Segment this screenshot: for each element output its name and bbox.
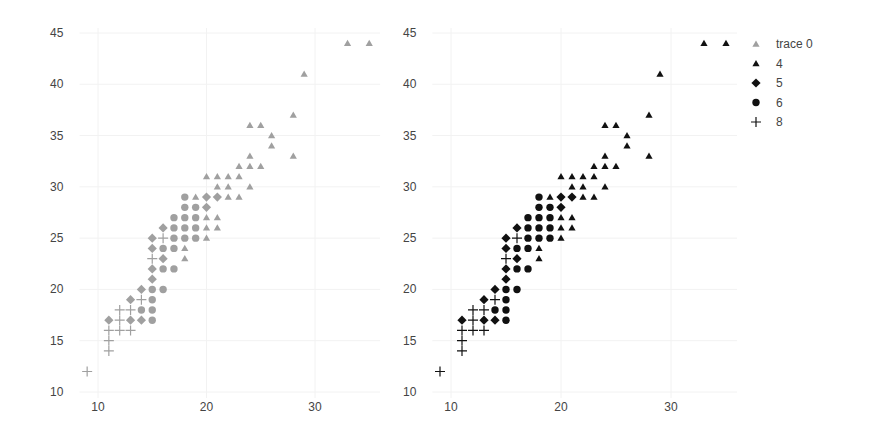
data-point-plus (435, 366, 445, 376)
data-point-diamond (490, 316, 499, 325)
data-point-plus (126, 305, 136, 315)
data-point-plus (104, 336, 114, 346)
legend-item[interactable]: 5 (751, 76, 783, 90)
data-point-plus (512, 233, 522, 243)
right-scatter-panel: 1015202530354045102030 (403, 26, 737, 414)
data-point-diamond (501, 275, 510, 284)
data-point-circle (524, 245, 531, 252)
data-point-triangle (546, 194, 553, 200)
data-point-diamond (126, 295, 135, 304)
data-point-triangle (246, 122, 253, 128)
data-point-triangle (568, 173, 575, 179)
legend-item[interactable]: trace 0 (752, 37, 813, 51)
data-point-triangle (590, 173, 597, 179)
data-point-triangle (366, 40, 373, 46)
legend-label: 5 (776, 76, 783, 90)
data-point-circle (491, 306, 498, 313)
data-point-diamond (148, 234, 157, 243)
data-point-diamond (213, 193, 222, 202)
data-point-plus (457, 346, 467, 356)
data-point-triangle (645, 152, 652, 158)
data-point-plus (490, 295, 500, 305)
data-point-circle (181, 224, 188, 231)
data-point-circle (192, 234, 199, 241)
y-tick-label: 10 (50, 385, 64, 399)
legend-item[interactable]: 8 (751, 115, 783, 129)
data-point-triangle (235, 163, 242, 169)
series-4 (535, 40, 729, 262)
data-point-plus (104, 346, 114, 356)
data-point-diamond (126, 316, 135, 325)
y-tick-label: 35 (403, 129, 417, 143)
chart-figure: 1015202530354045102030 10152025303540451… (0, 0, 894, 444)
data-point-circle (192, 224, 199, 231)
data-point-triangle (235, 173, 242, 179)
legend-label: trace 0 (776, 37, 813, 51)
data-point-diamond (556, 203, 565, 212)
data-point-diamond (512, 254, 521, 263)
y-tick-label: 25 (50, 231, 64, 245)
data-point-triangle (612, 122, 619, 128)
data-point-plus (115, 315, 125, 325)
legend: trace 04568 (751, 37, 813, 129)
data-point-triangle (257, 122, 264, 128)
y-tick-label: 40 (50, 77, 64, 91)
data-point-triangle (214, 173, 221, 179)
data-point-circle (138, 306, 145, 313)
series-5 (457, 193, 576, 325)
data-point-circle (535, 214, 542, 221)
y-tick-label: 35 (50, 129, 64, 143)
triangle-icon (752, 40, 759, 46)
data-point-circle (181, 204, 188, 211)
plus-icon (751, 117, 761, 127)
x-tick-label: 30 (664, 400, 678, 414)
data-point-triangle (181, 255, 188, 261)
y-tick-label: 20 (403, 282, 417, 296)
y-tick-label: 15 (50, 334, 64, 348)
data-point-circle (181, 234, 188, 241)
data-point-diamond (479, 316, 488, 325)
data-point-triangle (601, 152, 608, 158)
data-point-triangle (601, 122, 608, 128)
legend-item[interactable]: 6 (752, 96, 783, 110)
data-point-circle (502, 286, 509, 293)
gridlines (432, 28, 737, 398)
data-point-circle (170, 224, 177, 231)
data-point-triangle (290, 111, 297, 117)
series-6 (491, 193, 553, 323)
data-point-plus (501, 254, 511, 264)
y-tick-label: 45 (403, 26, 417, 40)
data-point-triangle (590, 163, 597, 169)
data-point-plus (115, 325, 125, 335)
data-point-diamond (567, 193, 576, 202)
data-point-diamond (556, 193, 565, 202)
data-point-diamond (148, 264, 157, 273)
data-point-circle (546, 224, 553, 231)
legend-item[interactable]: 4 (752, 57, 783, 71)
data-point-circle (546, 234, 553, 241)
series-4 (181, 40, 373, 262)
data-point-triangle (535, 255, 542, 261)
data-point-diamond (501, 264, 510, 273)
data-point-circle (159, 286, 166, 293)
data-point-triangle (268, 142, 275, 148)
data-point-triangle (700, 40, 707, 46)
data-point-plus (136, 295, 146, 305)
data-point-circle (502, 317, 509, 324)
data-point-circle (170, 214, 177, 221)
data-point-circle (513, 265, 520, 272)
data-point-circle (524, 224, 531, 231)
data-point-circle (535, 224, 542, 231)
y-tick-label: 45 (50, 26, 64, 40)
data-point-plus (468, 315, 478, 325)
y-tick-label: 40 (403, 77, 417, 91)
data-point-triangle (214, 224, 221, 230)
triangle-icon (752, 60, 759, 66)
data-point-diamond (501, 244, 510, 253)
gridlines (80, 28, 381, 398)
data-point-triangle (246, 152, 253, 158)
data-point-circle (535, 193, 542, 200)
data-point-circle (170, 245, 177, 252)
data-point-plus (479, 305, 489, 315)
data-point-circle (149, 306, 156, 313)
